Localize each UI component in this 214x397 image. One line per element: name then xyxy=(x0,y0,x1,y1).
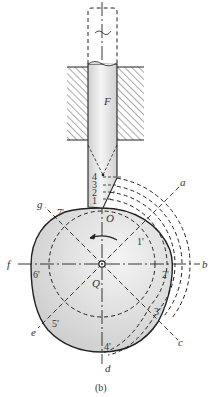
cam-point-6: 6' xyxy=(33,269,40,280)
follower-label: F xyxy=(103,95,111,107)
line-label-a: a xyxy=(180,176,186,188)
cam-point-5: 5' xyxy=(52,318,59,329)
line-label-g: g xyxy=(37,198,43,210)
guide-left xyxy=(67,67,88,140)
contact-point-label: O xyxy=(106,212,114,224)
line-label-b: b xyxy=(202,258,208,270)
line-label-f: f xyxy=(7,258,12,270)
follower-position-1: 1 xyxy=(92,195,97,206)
cam-follower-diagram: F O Q 4 3 2 1 1' 2' 3' 4' 5' 6' 7' a b c… xyxy=(0,0,214,397)
line-label-e: e xyxy=(31,326,36,338)
pivot-label: Q xyxy=(92,277,100,289)
follower-phantom-top xyxy=(88,8,117,64)
line-label-c: c xyxy=(178,336,183,348)
cam-point-3: 3' xyxy=(154,306,161,317)
figure-caption: (b) xyxy=(95,382,107,394)
line-label-d: d xyxy=(105,362,111,374)
guide-right xyxy=(117,67,144,140)
cam-point-7: 7' xyxy=(57,207,64,218)
cam-point-1: 1' xyxy=(137,236,144,247)
cam-point-4: 4' xyxy=(104,341,111,352)
cam-point-2: 2' xyxy=(162,269,169,280)
